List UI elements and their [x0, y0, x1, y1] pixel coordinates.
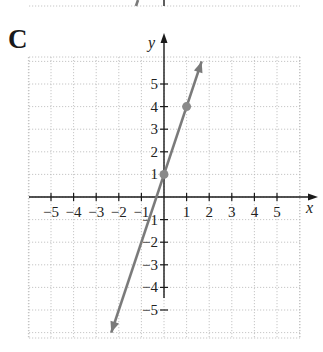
line-arrowhead-icon — [110, 321, 119, 333]
data-point — [160, 170, 169, 179]
x-tick-label: −3 — [88, 204, 104, 220]
x-tick-label: 5 — [273, 204, 281, 220]
y-tick-label: 5 — [151, 76, 159, 92]
y-axis-arrow-icon — [161, 33, 168, 43]
y-tick-label: −3 — [142, 257, 158, 273]
x-axis-label: x — [305, 199, 313, 216]
x-tick-label: 3 — [228, 204, 236, 220]
axes — [29, 33, 318, 298]
y-tick-label: 2 — [151, 144, 159, 160]
panel-label: C — [8, 24, 28, 54]
y-tick-label: 1 — [151, 166, 159, 182]
y-tick-label: 4 — [151, 99, 159, 115]
x-tick-label: −2 — [111, 204, 127, 220]
x-tick-label: 1 — [183, 204, 191, 220]
data-point — [182, 102, 191, 111]
x-tick-label: 4 — [251, 204, 259, 220]
line-arrowhead-icon — [194, 61, 203, 73]
y-tick-label: −5 — [142, 302, 158, 318]
x-tick-label: 2 — [205, 204, 213, 220]
previous-graph-fragment — [29, 0, 300, 6]
y-axis-label: y — [146, 34, 156, 52]
coordinate-plane-graph: −5−4−3−2−11234554321−1−2−3−4−5 C x y — [0, 0, 323, 352]
y-tick-label: −4 — [142, 279, 158, 295]
y-tick-label: 3 — [151, 121, 159, 137]
x-tick-label: −5 — [43, 204, 59, 220]
x-tick-label: −4 — [66, 204, 82, 220]
